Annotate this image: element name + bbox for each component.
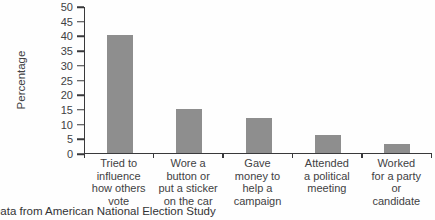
y-tick-mark [77,124,84,126]
y-tick-mark [77,80,84,82]
y-tick-label: 45 [61,16,73,28]
x-category-label: Wore a button or put a sticker on the ca… [153,157,222,207]
x-category-label: Tried to influence how others vote [84,157,153,207]
bar [176,109,202,153]
y-tick-label: 20 [61,89,73,101]
y-tick-label: 25 [61,75,73,87]
y-tick-mark [77,21,84,23]
y-tick-mark [77,94,84,96]
y-tick-mark [77,65,84,67]
x-category-label: Worked for a party or candidate [362,157,431,207]
y-tick-label: 50 [61,1,73,13]
bar [246,118,272,153]
y-tick-label: 15 [61,104,73,116]
y-tick-mark [77,6,84,8]
y-tick-mark [77,139,84,141]
source-caption: Data from American National Election Stu… [0,205,216,217]
y-tick-label: 10 [61,119,73,131]
y-tick-mark [77,50,84,52]
bar [107,35,133,153]
y-tick-mark [77,109,84,111]
plot-box [84,7,431,154]
y-tick-label: 30 [61,60,73,72]
bar [384,144,410,153]
y-axis-ticks: 50454035302520151050 [0,7,84,154]
y-tick-label: 40 [61,30,73,42]
y-tick-label: 0 [67,148,73,160]
x-axis-labels: Tried to influence how others voteWore a… [84,157,431,209]
x-category-label: Gave money to help a campaign [223,157,292,207]
y-tick-mark [77,36,84,38]
x-category-label: Attended a political meeting [292,157,361,195]
bar-chart-figure: Percentage 50454035302520151050 Tried to… [0,0,435,220]
bar [315,135,341,153]
y-tick-label: 5 [67,133,73,145]
y-tick-label: 35 [61,45,73,57]
